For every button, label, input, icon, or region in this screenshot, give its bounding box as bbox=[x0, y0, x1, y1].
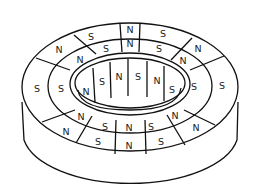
middle-pole-label: N bbox=[77, 111, 84, 122]
middle-pole-label: S bbox=[103, 43, 109, 54]
inner-pole-label: S bbox=[99, 76, 105, 87]
inner-pole-label: N bbox=[115, 71, 122, 82]
outer-pole-label: N bbox=[194, 43, 201, 54]
outer-pole-label: S bbox=[95, 136, 101, 147]
outer-pole-label: S bbox=[34, 83, 40, 94]
outer-pole-label: N bbox=[126, 24, 133, 35]
middle-pole-label: S bbox=[156, 43, 162, 54]
middle-pole-label: S bbox=[102, 121, 108, 132]
hole-bottom-edge bbox=[78, 88, 181, 110]
middle-pole-label: S bbox=[58, 83, 64, 94]
inner-pole-label: S bbox=[169, 84, 175, 95]
outer-pole-label: S bbox=[88, 31, 94, 42]
inner-pole-label: S bbox=[135, 71, 141, 82]
outer-pole-label: N bbox=[55, 44, 62, 55]
outer-pole-label: S bbox=[158, 136, 164, 147]
outer-pole-label: N bbox=[62, 126, 69, 137]
middle-pole-label: N bbox=[76, 54, 83, 65]
middle-pole-label: N bbox=[126, 38, 133, 49]
inner-pole-label: N bbox=[82, 86, 89, 97]
middle-pole-label: N bbox=[171, 110, 178, 121]
outer-pole-label: N bbox=[192, 122, 199, 133]
middle-pole-label: S bbox=[191, 81, 197, 92]
middle-pole-label: N bbox=[179, 55, 186, 66]
ring-magnet-diagram: SNSNSNSNSNSNSNSNSNSNSNSNNSNSNS bbox=[0, 0, 254, 194]
outer-pole-label: N bbox=[125, 140, 132, 151]
pole-labels: SNSNSNSNSNSNSNSNSNSNSNSNNSNSNS bbox=[34, 24, 225, 151]
middle-pole-label: N bbox=[125, 122, 132, 133]
middle-pole-label: S bbox=[148, 121, 154, 132]
outer-pole-label: S bbox=[219, 80, 225, 91]
inner-pole-label: N bbox=[153, 75, 160, 86]
outer-pole-label: S bbox=[160, 28, 166, 39]
